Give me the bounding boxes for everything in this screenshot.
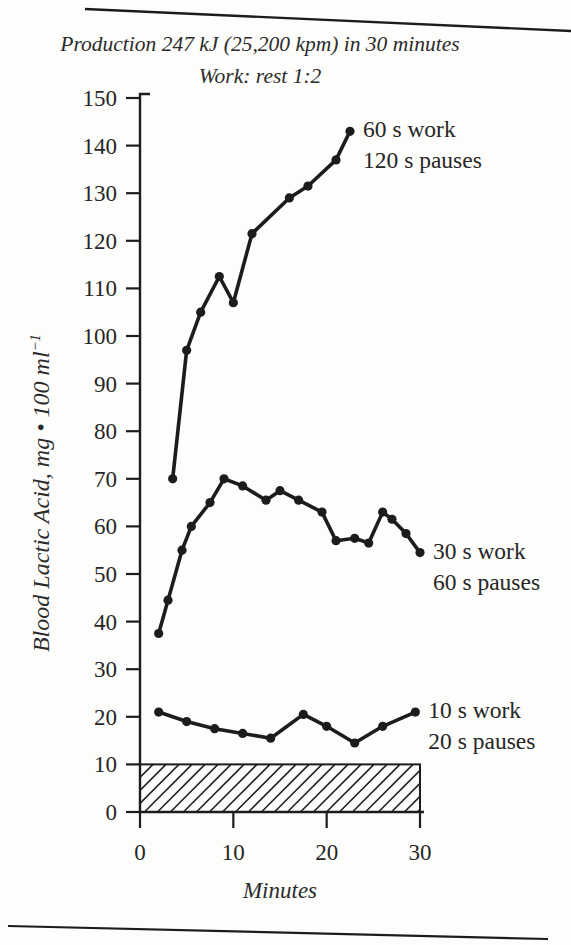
data-point [168, 474, 177, 483]
hatch-line [144, 764, 192, 812]
y-tick-label: 10 [94, 752, 117, 777]
data-point [299, 710, 308, 719]
data-point [182, 717, 191, 726]
data-point [182, 346, 191, 355]
series-label: 30 s work [433, 538, 526, 564]
y-tick-label: 70 [94, 467, 117, 492]
data-point [387, 515, 396, 524]
series-label: 20 s pauses [428, 728, 535, 754]
y-tick-label: 120 [83, 229, 118, 254]
hatch-line [170, 764, 218, 812]
series-line-0 [173, 131, 350, 478]
hatch-line [209, 764, 257, 812]
data-point [285, 193, 294, 202]
data-point [303, 181, 312, 190]
hatch-line [222, 764, 270, 812]
hatch-line [404, 796, 420, 812]
data-point [411, 707, 420, 716]
x-tick-label: 30 [409, 840, 432, 865]
y-tick-label: 20 [94, 705, 117, 730]
hatch-line [140, 764, 153, 777]
data-point [266, 734, 275, 743]
hatch-line [300, 764, 348, 812]
y-tick-label: 130 [83, 181, 118, 206]
data-point [294, 496, 303, 505]
hatch-line [378, 770, 420, 812]
data-point [378, 722, 387, 731]
data-point [219, 474, 228, 483]
hatch-line [391, 783, 420, 812]
series-label: 60 s work [363, 116, 456, 142]
hatch-line [235, 764, 283, 812]
x-tick-label: 20 [315, 840, 338, 865]
hatch-line [157, 764, 205, 812]
data-point [210, 724, 219, 733]
y-tick-label: 60 [94, 514, 117, 539]
hatch-line [339, 764, 387, 812]
y-tick-label: 30 [94, 657, 117, 682]
y-tick-label: 40 [94, 610, 117, 635]
y-tick-label: 90 [94, 372, 117, 397]
data-point [322, 722, 331, 731]
hatch-line [326, 764, 374, 812]
data-point [215, 272, 224, 281]
data-point [350, 738, 359, 747]
series-line-1 [159, 479, 420, 634]
series-line-2 [159, 712, 416, 743]
hatch-line [352, 764, 400, 812]
data-point [317, 508, 326, 517]
series-label: 120 s pauses [363, 147, 482, 173]
hatch-line [365, 764, 413, 812]
hatch-line [248, 764, 296, 812]
data-point [401, 529, 410, 538]
hatch-line [196, 764, 244, 812]
data-point [350, 534, 359, 543]
data-point [331, 536, 340, 545]
data-point [364, 538, 373, 547]
x-tick-label: 0 [134, 840, 146, 865]
hatch-line [313, 764, 361, 812]
data-point [261, 496, 270, 505]
data-point [378, 508, 387, 517]
hatch-line [274, 764, 322, 812]
data-point [229, 298, 238, 307]
bottom-rule-line [8, 926, 548, 939]
hatch-line [183, 764, 231, 812]
bottom-rule [0, 918, 571, 945]
hatch-line [287, 764, 335, 812]
y-tick-label: 80 [94, 419, 117, 444]
data-point [177, 546, 186, 555]
hatch-line [140, 764, 166, 790]
data-point [205, 498, 214, 507]
data-point [247, 229, 256, 238]
data-point [331, 155, 340, 164]
data-point [163, 596, 172, 605]
x-tick-label: 10 [222, 840, 245, 865]
figure-page: Production 247 kJ (25,200 kpm) in 30 min… [0, 0, 571, 945]
x-axis-title: Minutes [140, 878, 420, 904]
data-point [345, 127, 354, 136]
y-tick-label: 50 [94, 562, 117, 587]
data-point [238, 481, 247, 490]
data-point [196, 308, 205, 317]
hatch-line [261, 764, 309, 812]
data-point [275, 486, 284, 495]
axes [140, 94, 424, 812]
y-tick-label: 140 [83, 134, 118, 159]
series-label: 10 s work [428, 697, 521, 723]
y-tick-label: 0 [106, 800, 118, 825]
y-tick-label: 110 [83, 276, 117, 301]
data-point [187, 522, 196, 531]
chart-canvas: 0102030405060708090100110120130140150010… [0, 0, 571, 945]
data-point [154, 707, 163, 716]
data-point [154, 629, 163, 638]
series-label: 60 s pauses [433, 569, 540, 595]
data-point [238, 729, 247, 738]
y-tick-label: 100 [83, 324, 118, 349]
y-tick-label: 150 [83, 86, 118, 111]
data-point [415, 548, 424, 557]
